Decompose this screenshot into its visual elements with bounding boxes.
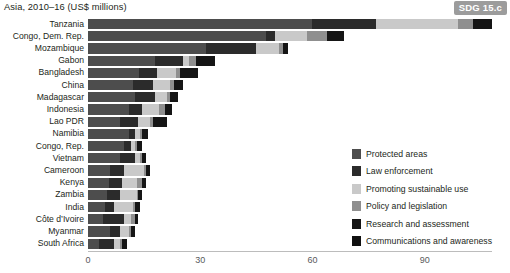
- stacked-bar: [88, 226, 135, 236]
- bar-row: China: [0, 80, 510, 90]
- legend-swatch-icon: [352, 201, 361, 211]
- bar-segment: [120, 117, 139, 127]
- bar-segment: [142, 178, 146, 188]
- bar-segment: [88, 226, 110, 236]
- bar-segment: [138, 190, 142, 200]
- legend-item[interactable]: Law enforcement: [352, 163, 510, 180]
- y-axis-label: Namibia: [0, 128, 84, 138]
- bar-segment: [105, 202, 114, 212]
- stacked-bar: [88, 19, 492, 29]
- legend-swatch-icon: [352, 184, 361, 194]
- x-axis-tick-label: 0: [85, 255, 90, 265]
- bar-segment: [142, 129, 148, 139]
- x-axis-line: [88, 251, 492, 252]
- bar-segment: [88, 153, 120, 163]
- legend-item[interactable]: Promoting sustainable use: [352, 181, 510, 198]
- y-axis-label: South Africa: [0, 238, 84, 248]
- stacked-bar: [88, 239, 127, 249]
- bar-segment: [88, 202, 105, 212]
- bar-segment: [206, 43, 257, 53]
- legend-item[interactable]: Protected areas: [352, 146, 510, 163]
- bar-segment: [88, 141, 124, 151]
- legend-item[interactable]: Communications and awareness: [352, 233, 510, 250]
- bar-segment: [88, 104, 129, 114]
- bar-segment: [133, 80, 154, 90]
- stacked-bar: [88, 202, 140, 212]
- bar-segment: [376, 19, 458, 29]
- bar-row: Congo, Dem. Rep.: [0, 31, 510, 41]
- bar-segment: [129, 104, 142, 114]
- bar-segment: [88, 129, 129, 139]
- legend-swatch-icon: [352, 149, 361, 159]
- bar-segment: [153, 80, 170, 90]
- bar-segment: [88, 239, 99, 249]
- legend-label: Protected areas: [366, 148, 427, 160]
- bar-row: Gabon: [0, 56, 510, 66]
- bar-segment: [146, 165, 150, 175]
- bar-segment: [189, 56, 196, 66]
- bar-segment: [88, 214, 103, 224]
- y-axis-label: Myanmar: [0, 226, 84, 236]
- bar-segment: [283, 43, 289, 53]
- stacked-bar: [88, 92, 178, 102]
- legend-item[interactable]: Policy and legislation: [352, 198, 510, 215]
- legend-label: Promoting sustainable use: [366, 183, 468, 195]
- chart-title: Asia, 2010–16 (US$ millions): [4, 2, 127, 12]
- bar-segment: [88, 92, 135, 102]
- bar-row: Lao PDR: [0, 117, 510, 127]
- bar-segment: [196, 56, 215, 66]
- chart-legend: Protected areasLaw enforcementPromoting …: [352, 146, 510, 250]
- bar-segment: [170, 92, 177, 102]
- stacked-bar: [88, 165, 150, 175]
- x-axis: 0306090: [0, 251, 510, 273]
- y-axis-label: Mozambique: [0, 43, 84, 53]
- bar-segment: [131, 226, 135, 236]
- bar-segment: [88, 19, 312, 29]
- bar-segment: [142, 153, 146, 163]
- bar-segment: [275, 31, 307, 41]
- bar-segment: [120, 153, 135, 163]
- y-axis-label: Tanzania: [0, 19, 84, 29]
- stacked-bar: [88, 117, 167, 127]
- bar-segment: [142, 104, 159, 114]
- bar-segment: [165, 104, 172, 114]
- y-axis-label: Zambia: [0, 189, 84, 199]
- bar-segment: [99, 239, 114, 249]
- legend-label: Research and assessment: [366, 218, 469, 230]
- bar-row: Bangladesh: [0, 68, 510, 78]
- bar-segment: [135, 202, 141, 212]
- bar-segment: [88, 117, 120, 127]
- stacked-bar: [88, 31, 344, 41]
- x-axis-tick-label: 60: [307, 255, 317, 265]
- bar-segment: [155, 56, 183, 66]
- bar-segment: [124, 214, 131, 224]
- bar-segment: [88, 165, 110, 175]
- stacked-bar: [88, 68, 198, 78]
- legend-item[interactable]: Research and assessment: [352, 216, 510, 233]
- bar-segment: [174, 80, 183, 90]
- bar-segment: [139, 68, 158, 78]
- stacked-bar: [88, 104, 172, 114]
- stacked-bar: [88, 43, 288, 53]
- bar-segment: [120, 226, 129, 236]
- y-axis-label: Cameroon: [0, 165, 84, 175]
- bar-segment: [110, 165, 123, 175]
- stacked-bar: [88, 190, 142, 200]
- bar-segment: [307, 31, 328, 41]
- bar-row: Tanzania: [0, 19, 510, 29]
- legend-label: Law enforcement: [366, 165, 433, 177]
- stacked-bar: [88, 178, 146, 188]
- legend-swatch-icon: [352, 219, 361, 229]
- y-axis-label: Indonesia: [0, 104, 84, 114]
- bar-segment: [473, 19, 492, 29]
- stacked-bar: [88, 80, 183, 90]
- bar-segment: [124, 141, 131, 151]
- bar-segment: [312, 19, 376, 29]
- bar-segment: [110, 226, 119, 236]
- bar-segment: [88, 68, 139, 78]
- bar-segment: [88, 178, 109, 188]
- bar-segment: [114, 202, 133, 212]
- y-axis-label: Côte d’Ivoire: [0, 214, 84, 224]
- bar-row: Indonesia: [0, 104, 510, 114]
- bar-segment: [103, 214, 124, 224]
